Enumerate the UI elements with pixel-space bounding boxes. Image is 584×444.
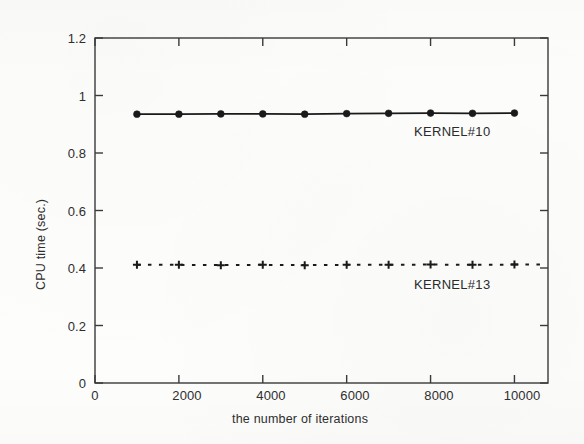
x-tick-label-4000: 4000 xyxy=(243,388,299,403)
data-point-kernel-13 xyxy=(301,261,309,269)
data-point-kernel-10 xyxy=(217,111,224,118)
data-point-kernel-13 xyxy=(217,261,225,269)
plot-frame xyxy=(95,38,548,383)
y-tick-label-1: 1 xyxy=(44,89,86,104)
data-point-kernel-10 xyxy=(259,111,266,118)
series-label-kernel10: KERNEL#10 xyxy=(414,124,490,139)
data-point-kernel-10 xyxy=(385,110,392,117)
figure-page: 1.2 1 0.8 0.6 0.4 0.2 0 0 2000 4000 6000… xyxy=(0,0,584,444)
data-point-kernel-13 xyxy=(385,261,393,269)
series-label-kernel13: KERNEL#13 xyxy=(414,277,490,292)
data-point-kernel-10 xyxy=(469,110,476,117)
y-tick-label-0-8: 0.8 xyxy=(44,146,86,161)
data-point-kernel-10 xyxy=(301,111,308,118)
data-point-kernel-10 xyxy=(175,111,182,118)
line-chart: 1.2 1 0.8 0.6 0.4 0.2 0 0 2000 4000 6000… xyxy=(0,0,584,444)
data-point-kernel-10 xyxy=(343,110,350,117)
x-tick-label-0: 0 xyxy=(75,388,115,403)
y-tick-label-1-2: 1.2 xyxy=(44,31,86,46)
data-point-kernel-13 xyxy=(469,261,477,269)
y-tick-label-0-6: 0.6 xyxy=(44,204,86,219)
plot-canvas xyxy=(0,0,584,444)
data-point-kernel-13 xyxy=(133,261,141,269)
x-tick-label-2000: 2000 xyxy=(159,388,215,403)
y-tick-label-0-2: 0.2 xyxy=(44,319,86,334)
x-tick-label-10000: 10000 xyxy=(492,388,552,403)
data-point-kernel-13 xyxy=(427,261,435,269)
x-tick-label-6000: 6000 xyxy=(327,388,383,403)
data-point-kernel-10 xyxy=(427,110,434,117)
series-line-kernel-13 xyxy=(137,265,515,266)
x-tick-label-8000: 8000 xyxy=(411,388,467,403)
data-point-kernel-10 xyxy=(134,111,141,118)
x-axis-title: the number of iterations xyxy=(232,412,368,426)
data-point-kernel-10 xyxy=(511,110,518,117)
data-point-kernel-13 xyxy=(343,261,351,269)
data-point-kernel-13 xyxy=(175,261,183,269)
y-tick-label-0-4: 0.4 xyxy=(44,261,86,276)
series-line-kernel-10 xyxy=(137,113,515,114)
y-axis-title: CPU time (sec.) xyxy=(34,199,48,290)
data-point-kernel-13 xyxy=(259,261,267,269)
